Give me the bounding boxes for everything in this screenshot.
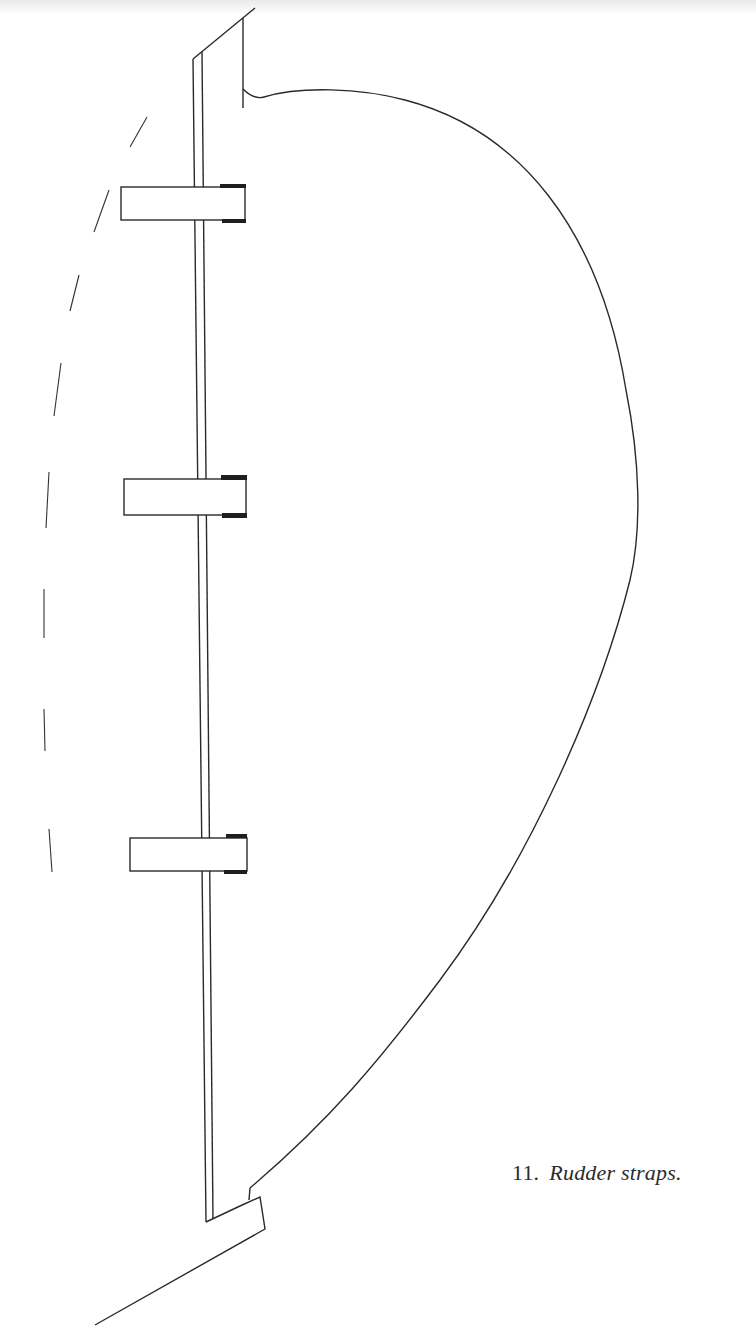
middle-strap [124,475,247,518]
lower-strap [130,834,247,874]
figure-title: Rudder straps. [549,1160,681,1185]
rudder-straps-diagram [0,0,756,1335]
figure-caption: 11.Rudder straps. [512,1160,682,1186]
upper-strap [121,184,246,223]
rudder-blade-outline [243,89,638,1200]
figure-number: 11. [512,1160,539,1185]
heel-and-keel-line [95,1197,265,1325]
